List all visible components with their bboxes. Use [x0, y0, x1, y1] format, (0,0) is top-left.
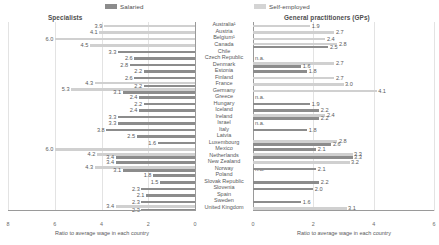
panel-title-gps: General practitioners (GPs): [284, 14, 370, 21]
bar-salaried: [141, 201, 195, 204]
legend-label-salaried: Salaried: [120, 3, 144, 10]
bar-salaried: [118, 122, 195, 125]
axis-tick-label: 2: [312, 221, 315, 227]
chart-legend: Salaried Self-employed: [0, 3, 439, 14]
bar-value-label: 4.3: [85, 81, 93, 87]
legend-swatch-salaried: [105, 4, 117, 9]
bar-self-employed: [253, 77, 334, 80]
axis-tick-label: 8: [7, 221, 10, 227]
bar-self-employed: [253, 25, 310, 28]
bar-self-employed: [55, 148, 195, 151]
specialists-plot: 3.94.16.04.53.32.62.82.22.64.32.25.33.12…: [8, 22, 195, 219]
country-label: United Kingdom: [196, 205, 252, 211]
bar-value-label: 2.7: [336, 61, 344, 67]
bar-salaried: [146, 194, 195, 197]
bar-value-label: 2.8: [339, 42, 347, 48]
bar-salaried: [253, 148, 316, 151]
axis-tick-label: 4: [372, 221, 375, 227]
country-label-column: Australia¹AustriaBelgium¹CanadaChileCzec…: [196, 22, 252, 219]
legend-label-self-employed: Self-employed: [269, 3, 310, 10]
axis-tick-label: 6: [433, 221, 436, 227]
bar-self-employed: [99, 31, 195, 34]
bar-salaried: [134, 77, 195, 80]
country-label: France: [196, 81, 252, 87]
doctor-remuneration-chart: Salaried Self-employed Specialists Gener…: [0, 0, 439, 245]
bar-self-employed: [104, 25, 195, 28]
bar-salaried: [118, 116, 195, 119]
bar-salaried: [158, 142, 195, 145]
axis-tick-label: 4: [100, 221, 103, 227]
axis-tick-label: 0: [252, 221, 255, 227]
bar-salaried: [160, 181, 195, 184]
axis-tick-label: 6: [53, 221, 56, 227]
bar-self-employed: [253, 38, 325, 41]
bar-salaried: [144, 70, 195, 73]
specialists-baseline: [8, 210, 195, 211]
bar-salaried: [253, 70, 307, 73]
bar-value-label: 4.3: [85, 165, 93, 171]
bar-salaried: [134, 57, 195, 60]
bar-self-employed: [253, 83, 344, 86]
bar-self-employed: [253, 90, 377, 93]
bar-salaried: [253, 188, 313, 191]
bar-salaried: [137, 135, 195, 138]
country-label: Canada: [196, 42, 252, 48]
bar-salaried: [153, 174, 195, 177]
country-label: Estonia: [196, 68, 252, 74]
bar-salaried: [253, 103, 310, 106]
country-label: Mexico: [196, 146, 252, 152]
panel-title-specialists: Specialists: [48, 14, 83, 21]
bar-salaried: [116, 161, 195, 164]
bar-salaried: [130, 64, 195, 67]
bar-self-employed: [253, 31, 334, 34]
bar-salaried: [106, 129, 195, 132]
country-label: Czech Republic: [196, 55, 252, 61]
bar-salaried: [139, 109, 195, 112]
bar-self-employed: [253, 161, 350, 164]
bar-salaried: [141, 188, 195, 191]
legend-entry-self-employed: Self-employed: [254, 3, 310, 10]
bar-salaried: [253, 181, 319, 184]
gridline: [434, 22, 435, 211]
bar-salaried: [253, 168, 316, 171]
legend-entry-salaried: Salaried: [105, 3, 144, 10]
country-label: New Zealand: [196, 159, 252, 165]
bar-value-label: 4.2: [88, 152, 96, 158]
legend-swatch-self-employed: [254, 4, 266, 9]
bar-value-label: 5.3: [62, 87, 70, 93]
specialists-axis-ticks: 86420: [8, 221, 195, 230]
country-label: Greece: [196, 94, 252, 100]
bar-salaried: [144, 103, 195, 106]
gps-baseline: [253, 210, 434, 211]
country-label: Israel: [196, 120, 252, 126]
gps-axis-ticks: 0246: [253, 221, 434, 230]
country-label: Iceland: [196, 107, 252, 113]
specialists-axis-caption: Ratio to average wage in each country: [55, 230, 149, 236]
bar-salaried: [253, 201, 301, 204]
bar-salaried: [139, 96, 195, 99]
bar-salaried: [118, 51, 195, 54]
gps-bar-rows: 1.92.72.42.82.5n.a.2.71.61.82.73.04.1n.a…: [253, 22, 434, 211]
bar-self-employed: [90, 44, 195, 47]
bar-self-employed: [55, 38, 195, 41]
bar-salaried: [253, 129, 307, 132]
gps-axis-caption: Ratio to average wage in each country: [297, 230, 391, 236]
bar-salaried: [253, 109, 319, 112]
specialists-bar-rows: 3.94.16.04.53.32.62.82.22.64.32.25.33.12…: [8, 22, 195, 211]
axis-tick-label: 2: [147, 221, 150, 227]
country-label: Latvia: [196, 133, 252, 139]
axis-tick-label: 0: [194, 221, 197, 227]
gps-plot: 1.92.72.42.82.5n.a.2.71.61.82.73.04.1n.a…: [253, 22, 434, 219]
